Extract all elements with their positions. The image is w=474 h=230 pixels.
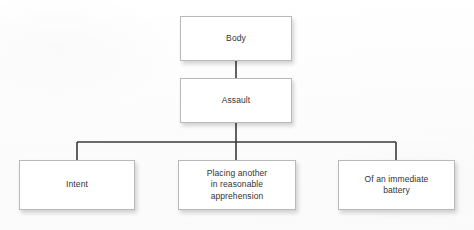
node-intent[interactable]: Intent xyxy=(19,160,135,210)
node-placing-another-label: Placing another in reasonable apprehensi… xyxy=(203,168,272,203)
node-immediate-battery[interactable]: Of an immediate battery xyxy=(338,160,455,210)
node-placing-another[interactable]: Placing another in reasonable apprehensi… xyxy=(178,160,296,210)
node-assault-label: Assault xyxy=(218,95,255,107)
node-intent-label: Intent xyxy=(62,179,92,191)
node-body-label: Body xyxy=(222,33,250,45)
hierarchy-diagram: Body Assault Intent Placing another in r… xyxy=(0,0,474,230)
node-body[interactable]: Body xyxy=(180,16,292,61)
node-assault[interactable]: Assault xyxy=(180,78,292,123)
node-immediate-battery-label: Of an immediate battery xyxy=(361,174,433,197)
